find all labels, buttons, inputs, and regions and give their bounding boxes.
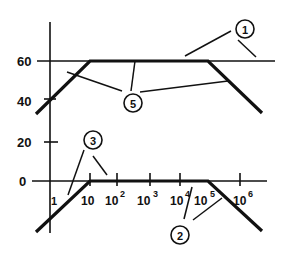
callout-1-label: 1 [242,24,248,36]
upper-response-trace [36,61,262,114]
y-label-60: 60 [17,54,31,69]
callout-5-leader-c [140,81,228,92]
callout-5-leader-a [67,72,122,91]
callout-5-leader-b [131,61,135,91]
x-label-10: 10 [81,194,95,208]
callout-3-label: 3 [90,135,96,147]
callout-5-label: 5 [130,98,136,110]
x-label-10e3-base: 10 [137,194,151,208]
x-label-10e2-base: 10 [105,194,119,208]
x-label-10e3-exp: 3 [153,189,158,199]
y-label-0: 0 [19,174,26,189]
bode-diagram: 60 40 20 0 1 10 10 2 10 3 10 4 10 5 10 6… [0,0,285,260]
y-label-40: 40 [17,94,31,109]
x-label-10e5-exp: 5 [210,189,215,199]
y-label-20: 20 [17,135,31,150]
x-label-10e6-exp: 6 [248,189,253,199]
x-label-10e2-exp: 2 [120,189,125,199]
x-label-10e5-base: 10 [194,194,208,208]
x-label-10e4-base: 10 [170,194,184,208]
callout-1-leader-a [185,31,231,56]
x-label-1: 1 [51,195,57,207]
callout-1-leader-b [238,40,256,57]
callout-3-leader-b [93,156,107,175]
callout-2-label: 2 [177,230,183,242]
